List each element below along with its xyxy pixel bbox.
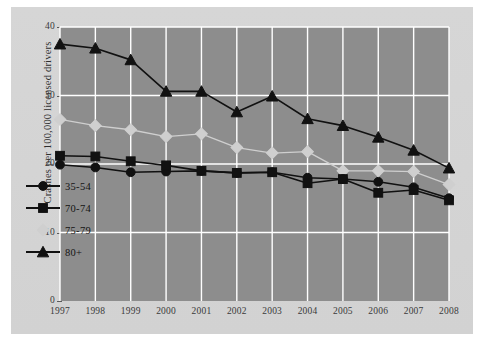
x-tick-label: 2008 bbox=[439, 306, 459, 316]
triangle-marker bbox=[22, 242, 64, 262]
series-line-75-79 bbox=[60, 119, 449, 184]
circle-marker bbox=[56, 160, 65, 169]
x-tick-label: 2003 bbox=[262, 306, 282, 316]
legend-label: 70-74 bbox=[65, 203, 91, 214]
triangle-marker bbox=[302, 113, 313, 124]
diamond-marker bbox=[231, 142, 243, 154]
x-tick-label: 2001 bbox=[192, 306, 212, 316]
square-marker bbox=[268, 168, 277, 177]
legend-swatch-svg bbox=[22, 242, 64, 262]
y-tick-label: 40 bbox=[33, 21, 55, 31]
diamond-marker bbox=[372, 165, 384, 177]
diamond-marker bbox=[37, 224, 49, 236]
legend-label: 75-79 bbox=[65, 225, 91, 236]
chart-legend: 35-5470-7475-7980+ bbox=[22, 176, 132, 262]
legend-item-80+[interactable]: 80+ bbox=[22, 242, 82, 262]
legend-item-70-74[interactable]: 70-74 bbox=[22, 198, 91, 218]
diamond-marker bbox=[22, 220, 64, 240]
x-tick-label: 2007 bbox=[404, 306, 424, 316]
circle-marker bbox=[39, 182, 48, 191]
x-tick-label: 1997 bbox=[50, 306, 70, 316]
series-line-80+ bbox=[60, 44, 449, 168]
x-axis-ticks: 1997199819992000200120022003200420052006… bbox=[60, 303, 449, 325]
x-tick-label: 1999 bbox=[121, 306, 141, 316]
y-tick-label: 20 bbox=[33, 158, 55, 168]
triangle-marker bbox=[408, 145, 419, 156]
legend-item-35-54[interactable]: 35-54 bbox=[22, 176, 91, 196]
square-marker bbox=[22, 198, 64, 218]
legend-swatch-svg bbox=[22, 220, 64, 240]
square-marker bbox=[39, 204, 48, 213]
square-marker bbox=[197, 166, 206, 175]
x-tick-label: 2006 bbox=[368, 306, 388, 316]
square-marker bbox=[445, 196, 454, 205]
diamond-marker bbox=[196, 128, 208, 140]
legend-swatch-svg bbox=[22, 198, 64, 218]
x-tick-label: 2005 bbox=[333, 306, 353, 316]
circle-marker bbox=[91, 163, 100, 172]
square-marker bbox=[162, 161, 171, 170]
diamond-marker bbox=[90, 120, 102, 132]
triangle-marker bbox=[231, 106, 242, 117]
diamond-marker bbox=[302, 146, 314, 158]
legend-label: 80+ bbox=[65, 247, 82, 258]
square-marker bbox=[232, 169, 241, 178]
square-marker bbox=[374, 188, 383, 197]
chart-figure: Crashes per 100,000 licensed drivers 010… bbox=[0, 0, 484, 342]
diamond-marker bbox=[266, 147, 278, 159]
square-marker bbox=[339, 175, 348, 184]
legend-swatch-svg bbox=[22, 176, 64, 196]
square-marker bbox=[303, 179, 312, 188]
x-tick-label: 2000 bbox=[156, 306, 176, 316]
series-80+ bbox=[54, 38, 454, 173]
y-tick-mark bbox=[57, 301, 62, 302]
diamond-marker bbox=[125, 124, 137, 136]
diamond-marker bbox=[160, 131, 172, 143]
square-marker bbox=[91, 152, 100, 161]
circle-marker bbox=[22, 176, 64, 196]
circle-marker bbox=[374, 177, 383, 186]
y-tick-label: 30 bbox=[33, 90, 55, 100]
square-marker bbox=[56, 151, 65, 160]
legend-label: 35-54 bbox=[65, 181, 91, 192]
square-marker bbox=[126, 157, 135, 166]
x-tick-label: 2002 bbox=[227, 306, 247, 316]
x-tick-label: 1998 bbox=[85, 306, 105, 316]
legend-item-75-79[interactable]: 75-79 bbox=[22, 220, 91, 240]
y-tick-label: 0 bbox=[33, 295, 55, 305]
triangle-marker bbox=[373, 132, 384, 143]
triangle-marker bbox=[125, 54, 136, 65]
x-tick-label: 2004 bbox=[298, 306, 318, 316]
diamond-marker bbox=[408, 166, 420, 178]
square-marker bbox=[409, 186, 418, 195]
